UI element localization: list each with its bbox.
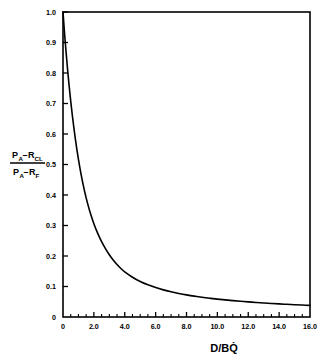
y-tick-label: 0.7 (46, 99, 56, 108)
y-axis-title-denominator: P A – R F (13, 167, 40, 179)
y-tick-label: 0.5 (46, 160, 56, 169)
numerator-p-cl-subscript: CL (35, 155, 43, 162)
y-tick-label: 0.1 (46, 282, 56, 291)
y-tick-label: 0.3 (46, 221, 56, 230)
y-tick-label: 0.9 (46, 38, 56, 47)
y-tick-label: 0.8 (46, 69, 56, 78)
y-tick-label: 0 (52, 313, 56, 322)
chart-figure: 00.10.20.30.40.50.60.70.80.91.0 02.04.06… (0, 0, 319, 360)
y-tick-label: 1.0 (46, 8, 56, 17)
y-axis-title: P A – R CL P A – R F (10, 150, 45, 179)
x-tick-label: 8.0 (182, 322, 192, 331)
x-tick-label: 12.0 (241, 322, 255, 331)
x-tick-label: 14.0 (272, 322, 286, 331)
x-axis-title-text: D/BQ̇ (210, 342, 238, 354)
x-tick-label: 2.0 (89, 322, 99, 331)
x-axis-tick-labels: 02.04.06.08.010.012.014.016.0 (61, 322, 317, 331)
x-tick-label: 10.0 (210, 322, 224, 331)
decay-curve-chart: 00.10.20.30.40.50.60.70.80.91.0 02.04.06… (0, 0, 319, 360)
denominator-minus: – (24, 167, 29, 177)
x-tick-label: 0 (61, 322, 65, 331)
denominator-p-f-subscript: F (36, 172, 40, 179)
y-tick-label: 0.2 (46, 252, 56, 261)
y-axis-title-numerator: P A – R CL (12, 150, 43, 162)
plot-frame (63, 12, 310, 317)
x-tick-label: 4.0 (120, 322, 130, 331)
y-axis-tick-labels: 00.10.20.30.40.50.60.70.80.91.0 (46, 8, 56, 322)
denominator-p-a: P (13, 167, 19, 177)
x-axis-title: D/BQ̇ (210, 342, 238, 354)
y-tick-label: 0.4 (46, 191, 56, 200)
numerator-minus: – (23, 150, 28, 160)
x-tick-label: 16.0 (303, 322, 317, 331)
numerator-p-a: P (12, 150, 18, 160)
y-tick-label: 0.6 (46, 130, 56, 139)
x-tick-label: 6.0 (151, 322, 161, 331)
